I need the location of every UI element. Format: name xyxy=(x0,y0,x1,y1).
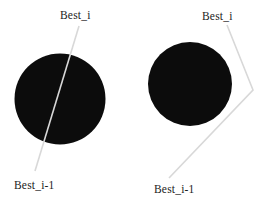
right-bottom-label: Best_i-1 xyxy=(154,183,195,196)
left-bottom-label: Best_i-1 xyxy=(14,179,55,192)
diagram-shapes xyxy=(0,0,261,202)
two-panel-diagram: Best_i Best_i-1 Best_i Best_i-1 xyxy=(0,0,261,202)
left-top-label: Best_i xyxy=(60,9,91,22)
right-disk xyxy=(148,42,232,126)
right-top-label: Best_i xyxy=(202,10,233,23)
left-disk xyxy=(15,54,106,145)
